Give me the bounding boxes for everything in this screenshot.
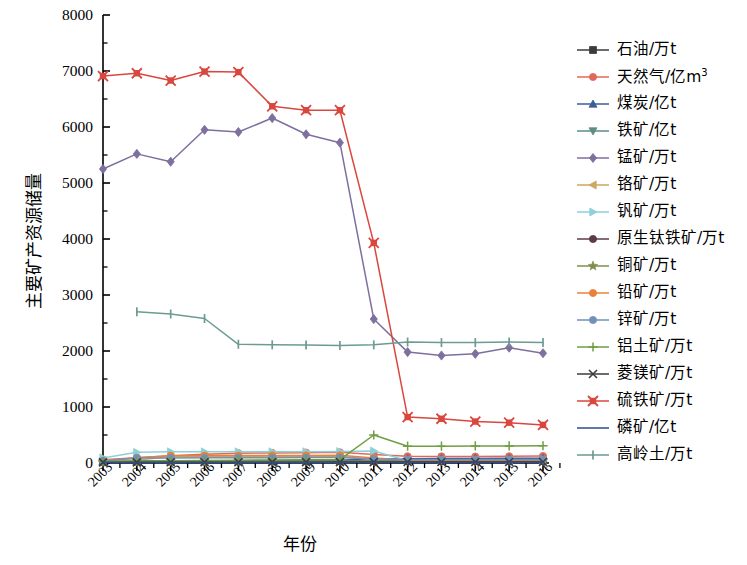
legend-sample-icon (576, 447, 610, 463)
legend-label: 锰矿/万t (617, 150, 676, 166)
marker-circle (589, 316, 596, 323)
legend-marker-sample (576, 96, 610, 112)
marker-circle (589, 235, 596, 242)
legend-sample-icon (576, 204, 610, 220)
legend-sample-icon (576, 177, 610, 193)
series-4 (99, 113, 546, 360)
marker-diamond (99, 164, 106, 173)
marker-diamond (589, 153, 596, 162)
marker-plus (538, 441, 547, 450)
legend-marker-sample (576, 69, 610, 85)
legend-sample-icon (576, 123, 610, 139)
legend-marker-sample (576, 339, 610, 355)
legend-marker-sample (576, 204, 610, 220)
legend-marker-sample (576, 42, 610, 58)
legend-item[interactable]: 锌矿/万t (576, 306, 744, 333)
legend-sample-icon (576, 42, 610, 58)
series-line (103, 72, 543, 425)
legend-item[interactable]: 石油/万t (576, 36, 744, 63)
legend-label: 磷矿/亿t (617, 420, 676, 436)
marker-diamond (539, 349, 546, 358)
legend-marker-sample (576, 447, 610, 463)
legend-item[interactable]: 铅矿/万t (576, 279, 744, 306)
legend-sample-icon (576, 393, 610, 409)
legend-item[interactable]: 硫铁矿/万t (576, 387, 744, 414)
legend-label: 菱镁矿/万t (617, 366, 692, 382)
marker-diamond (336, 138, 343, 147)
legend-item[interactable]: 天然气/亿m3 (576, 63, 744, 90)
marker-triangle-right (590, 208, 597, 216)
marker-plus (588, 342, 597, 351)
series-line (137, 312, 543, 346)
marker-diamond (269, 113, 276, 122)
legend-sample-icon (576, 285, 610, 301)
chart-legend: 石油/万t天然气/亿m3煤炭/亿t铁矿/亿t锰矿/万t铬矿/万t钒矿/万t原生钛… (576, 36, 744, 468)
legend-sample-icon (576, 231, 610, 247)
legend-marker-sample (576, 393, 610, 409)
legend-item[interactable]: 铬矿/万t (576, 171, 744, 198)
legend-item[interactable]: 煤炭/亿t (576, 90, 744, 117)
legend-sample-icon (576, 96, 610, 112)
legend-item[interactable]: 原生钛铁矿/万t (576, 225, 744, 252)
legend-item[interactable]: 铁矿/亿t (576, 117, 744, 144)
legend-label: 煤炭/亿t (617, 96, 676, 112)
legend-label: 铁矿/亿t (617, 123, 676, 139)
marker-plus (505, 441, 514, 450)
marker-triangle-left (589, 181, 596, 189)
marker-diamond (472, 349, 479, 358)
marker-diamond (133, 149, 140, 158)
legend-marker-sample (576, 420, 610, 436)
marker-plus (471, 441, 480, 450)
legend-marker-sample (576, 258, 610, 274)
legend-marker-sample (576, 150, 610, 166)
legend-label: 铬矿/万t (617, 177, 676, 193)
legend-item[interactable]: 高岭土/万t (576, 441, 744, 468)
legend-item[interactable]: 锰矿/万t (576, 144, 744, 171)
legend-marker-sample (576, 285, 610, 301)
marker-circle (589, 73, 596, 80)
legend-marker-sample (576, 123, 610, 139)
series-group (98, 67, 548, 467)
legend-label: 石油/万t (617, 42, 676, 58)
legend-label: 钒矿/万t (617, 204, 676, 220)
legend-sample-icon (576, 258, 610, 274)
legend-marker-sample (576, 177, 610, 193)
legend-item[interactable]: 铜矿/万t (576, 252, 744, 279)
series-15 (137, 307, 543, 350)
series-line (103, 118, 543, 355)
y-axis-ticks (103, 15, 110, 463)
legend-item[interactable]: 磷矿/亿t (576, 414, 744, 441)
legend-label: 原生钛铁矿/万t (617, 231, 724, 247)
legend-item[interactable]: 钒矿/万t (576, 198, 744, 225)
marker-diamond (438, 351, 445, 360)
legend-sample-icon (576, 69, 610, 85)
legend-label: 铝土矿/万t (617, 339, 692, 355)
legend-sample-icon (576, 339, 610, 355)
marker-plus (437, 442, 446, 451)
legend-label: 铜矿/万t (617, 258, 676, 274)
legend-label: 天然气/亿m3 (617, 68, 708, 86)
marker-diamond (302, 130, 309, 139)
legend-label: 铅矿/万t (617, 285, 676, 301)
marker-square (590, 46, 597, 53)
marker-plus (403, 442, 412, 451)
legend-marker-sample (576, 366, 610, 382)
legend-item[interactable]: 菱镁矿/万t (576, 360, 744, 387)
legend-item[interactable]: 铝土矿/万t (576, 333, 744, 360)
legend-label: 锌矿/万t (617, 312, 676, 328)
legend-sample-icon (576, 420, 610, 436)
mineral-reserves-line-chart: 主要矿产资源储量 年份 0100020003000400050006000700… (0, 0, 747, 565)
legend-marker-sample (576, 231, 610, 247)
legend-sample-icon (576, 150, 610, 166)
legend-label: 高岭土/万t (617, 447, 692, 463)
legend-label-superscript: 3 (701, 67, 707, 78)
legend-sample-icon (576, 312, 610, 328)
series-13 (98, 67, 548, 430)
marker-star (588, 261, 598, 270)
legend-label: 硫铁矿/万t (617, 393, 692, 409)
legend-sample-icon (576, 366, 610, 382)
legend-marker-sample (576, 312, 610, 328)
marker-diamond (235, 127, 242, 136)
marker-circle (589, 289, 596, 296)
